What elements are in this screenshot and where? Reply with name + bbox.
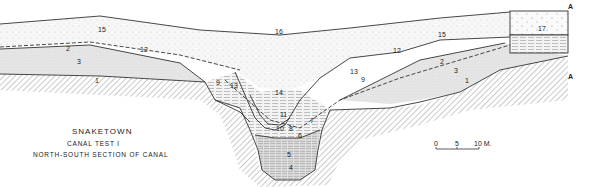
layer-2-label-left: 2 <box>66 45 70 52</box>
layer-14-label: 14 <box>275 89 283 96</box>
layer-3-label-right: 3 <box>454 67 458 74</box>
layer-8-label: 8 <box>289 125 293 132</box>
layer-1-label-left: 1 <box>95 77 99 84</box>
layer-12-label-left: 12 <box>140 46 148 53</box>
scale-bar: 0 5 10 M. <box>434 140 492 149</box>
layer-13-label-right: 13 <box>350 68 358 75</box>
layer-1-label-right: 1 <box>465 77 469 84</box>
layer-16-label: 16 <box>275 28 283 35</box>
section-marker-top: A <box>568 3 573 10</box>
scale-tick-5: 5 <box>455 140 459 147</box>
layer-2-label-right: 2 <box>440 58 444 65</box>
layer-3-label-left: 3 <box>77 58 81 65</box>
layer-11-label: 11 <box>280 111 287 118</box>
layer-9-label-right: 9 <box>361 76 365 83</box>
diagram-subtitle-section: NORTH-SOUTH SECTION OF CANAL <box>33 151 168 158</box>
diagram-subtitle-test: CANAL TEST I <box>67 140 120 147</box>
layer-7-label: 7 <box>310 117 314 124</box>
scale-tick-0: 0 <box>434 140 438 147</box>
layer-6-label: 6 <box>298 132 302 139</box>
layer-12-label-right: 12 <box>393 47 401 54</box>
canal-section-diagram: 15 15 16 2 12 12 2 3 3 1 1 13 9 9 13 14 … <box>0 0 590 187</box>
layer-4-label: 4 <box>289 164 293 171</box>
scale-tick-10m: 10 M. <box>474 140 492 147</box>
layer-17-label: 17 <box>538 25 546 32</box>
layer-15-label-left: 15 <box>98 26 106 33</box>
layer-5-label: 5 <box>287 151 291 158</box>
layer-9-label-left: 9 <box>216 79 220 86</box>
layer-13-label-left: 13 <box>230 82 238 89</box>
diagram-title: SNAKETOWN <box>72 127 132 136</box>
layer-15-label-right: 15 <box>438 31 446 38</box>
section-marker-bottom: A <box>568 73 573 80</box>
layer-10-label: 10 <box>276 125 284 132</box>
